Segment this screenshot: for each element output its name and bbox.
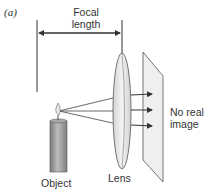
- lens: [113, 53, 131, 169]
- lens-label: Lens: [108, 172, 131, 184]
- focal-length-dimension: [37, 20, 122, 92]
- incident-rays: [59, 97, 117, 124]
- no-real-image-line2: image: [170, 118, 204, 130]
- no-real-image-line1: No real: [170, 106, 204, 118]
- no-real-image-label: No real image: [170, 106, 204, 130]
- optics-diagram: [0, 0, 215, 192]
- candle-object: [50, 103, 67, 172]
- screen-plane: [143, 52, 163, 182]
- object-label: Object: [41, 177, 71, 189]
